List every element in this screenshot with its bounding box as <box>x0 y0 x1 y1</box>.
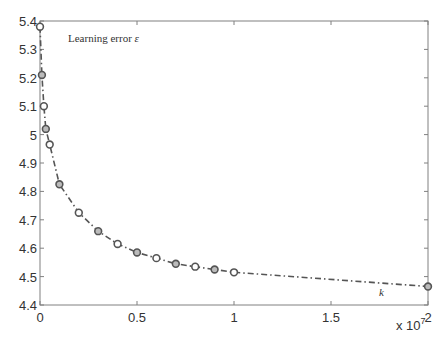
y-tick-label: 5.4 <box>19 14 37 29</box>
y-tick-label: 4.9 <box>19 156 37 171</box>
x-tick-label: 0 <box>36 310 43 325</box>
data-point-marker <box>134 249 141 256</box>
y-tick-label: 4.4 <box>19 298 37 313</box>
data-point-marker <box>42 126 49 133</box>
data-point-marker <box>153 255 160 262</box>
data-point-marker <box>39 72 46 79</box>
data-point-marker <box>192 263 199 270</box>
data-point-marker <box>425 283 432 290</box>
annotation-learning-error: Learning error ε <box>68 32 140 44</box>
data-point-marker <box>95 228 102 235</box>
y-tick-label: 5.3 <box>19 42 37 57</box>
y-tick-label: 5 <box>30 128 37 143</box>
data-point-marker <box>231 269 238 276</box>
y-tick-label: 5.1 <box>19 99 37 114</box>
data-point-marker <box>56 181 63 188</box>
x-multiplier: x 107 <box>396 316 426 333</box>
data-point-marker <box>37 23 44 30</box>
data-point-marker <box>75 209 82 216</box>
y-tick-label: 5.2 <box>19 71 37 86</box>
data-point-marker <box>40 103 47 110</box>
data-point-marker <box>114 241 121 248</box>
y-tick-label: 4.7 <box>19 213 37 228</box>
x-tick-label: 1.5 <box>322 310 340 325</box>
data-point-marker <box>211 266 218 273</box>
data-point-marker <box>46 141 53 148</box>
plot-area <box>40 21 428 305</box>
learning-error-chart: 4.44.54.64.74.84.955.15.25.35.4 00.511.5… <box>0 0 448 356</box>
data-point-marker <box>172 260 179 267</box>
y-tick-label: 4.6 <box>19 241 37 256</box>
x-tick-label: 0.5 <box>128 310 146 325</box>
y-tick-label: 4.8 <box>19 184 37 199</box>
y-tick-label: 4.5 <box>19 270 37 285</box>
x-tick-label: 1 <box>230 310 237 325</box>
